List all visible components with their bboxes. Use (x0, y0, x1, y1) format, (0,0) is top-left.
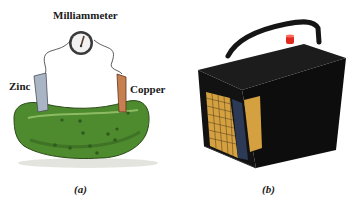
copper-label: Copper (130, 83, 165, 95)
pickle-icon (14, 101, 149, 159)
car-battery-illustration (176, 0, 352, 206)
caption-b: (b) (262, 183, 275, 195)
zinc-label: Zinc (9, 80, 30, 92)
milliammeter-icon (69, 31, 93, 55)
copper-electrode-icon (117, 74, 126, 112)
red-terminal-icon (286, 35, 294, 45)
car-battery-panel: (b) (176, 0, 352, 206)
milliammeter-label: Milliammeter (53, 9, 118, 21)
pickle-battery-illustration (0, 0, 176, 206)
caption-a: (a) (74, 183, 87, 195)
pickle-battery-panel: Milliammeter Zinc Copper (a) (0, 0, 176, 206)
